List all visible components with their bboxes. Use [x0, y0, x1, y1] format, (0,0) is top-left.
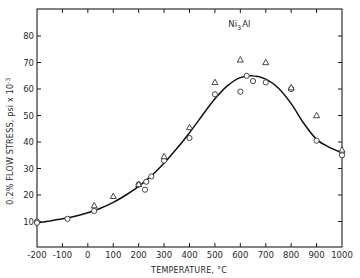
y-tick-label: 60: [23, 84, 34, 94]
x-tick-label: -200: [27, 250, 46, 260]
circle-marker: [65, 216, 70, 221]
triangle-marker: [91, 202, 97, 207]
y-axis-label: 0.2% FLOW STRESS, psi x 10-3: [4, 77, 15, 204]
triangle-marker: [339, 147, 345, 152]
circle-marker: [250, 78, 255, 83]
data-points: [34, 57, 345, 226]
x-tick-label: 800: [283, 250, 299, 260]
x-axis-label: TEMPERATURE, °C: [150, 266, 227, 275]
circle-marker: [149, 174, 154, 179]
circle-marker: [212, 92, 217, 97]
x-tick-label: 600: [232, 250, 248, 260]
x-tick-label: 400: [181, 250, 197, 260]
circle-marker: [314, 138, 319, 143]
circle-marker: [142, 187, 147, 192]
triangle-marker: [110, 193, 116, 198]
circle-marker: [263, 80, 268, 85]
x-tick-label: 300: [156, 250, 172, 260]
circle-marker: [92, 208, 97, 213]
circle-marker: [339, 153, 344, 158]
y-tick-label: 30: [23, 164, 34, 174]
x-tick-label: 900: [308, 250, 324, 260]
fit-curve: [37, 76, 342, 223]
circle-marker: [34, 220, 39, 225]
y-axis-ticks: 1020304050607080: [23, 31, 342, 227]
y-tick-label: 40: [23, 137, 34, 147]
alloy-annotation: Ni3Al: [228, 19, 250, 32]
y-tick-label: 10: [23, 217, 34, 227]
triangle-marker: [187, 124, 193, 129]
x-axis-ticks: -200-10001002003004005006007008009001000: [27, 9, 352, 260]
y-tick-label: 50: [23, 111, 34, 121]
x-tick-label: 100: [105, 250, 121, 260]
triangle-marker: [237, 57, 243, 62]
y-tick-label: 20: [23, 190, 34, 200]
x-tick-label: 1000: [331, 250, 353, 260]
flow-stress-chart: -200-10001002003004005006007008009001000…: [0, 0, 360, 278]
x-tick-label: 0: [85, 250, 90, 260]
circle-marker: [144, 179, 149, 184]
circle-marker: [187, 135, 192, 140]
triangle-marker: [161, 153, 167, 158]
x-tick-label: 200: [131, 250, 147, 260]
x-tick-label: 500: [207, 250, 223, 260]
circle-marker: [244, 73, 249, 78]
x-tick-label: 700: [258, 250, 274, 260]
y-tick-label: 70: [23, 58, 34, 68]
triangle-marker: [263, 59, 269, 64]
circle-marker: [238, 89, 243, 94]
x-tick-label: -100: [53, 250, 72, 260]
triangle-marker: [314, 112, 320, 117]
y-tick-label: 80: [23, 31, 34, 41]
triangle-marker: [212, 79, 218, 84]
